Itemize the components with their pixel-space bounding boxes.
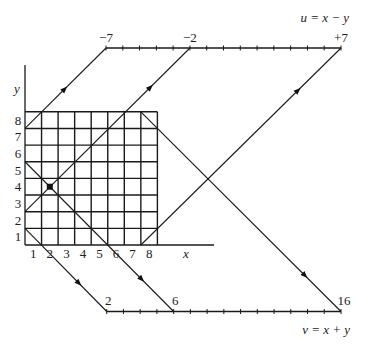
y-tick-label: 3 <box>15 196 22 211</box>
y-tick-label: 7 <box>15 129 22 144</box>
u-tick-label: +7 <box>334 30 348 45</box>
v-axis-title: v = x + y <box>302 322 350 337</box>
v-tick-label: 2 <box>105 293 112 308</box>
diagram-canvas: 1234567812345678xy−7−2+72616u = x − yv =… <box>0 0 367 352</box>
y-tick-label: 6 <box>15 146 22 161</box>
x-tick-label: 4 <box>80 246 87 261</box>
x-tick-label: 5 <box>96 246 103 261</box>
x-tick-label: 1 <box>30 246 37 261</box>
y-tick-label: 2 <box>15 213 22 228</box>
coordinate-transform-diagram: 1234567812345678xy−7−2+72616u = x − yv =… <box>0 0 367 352</box>
x-tick-label: 8 <box>146 246 153 261</box>
u-line <box>141 48 341 245</box>
v-axis <box>107 309 341 314</box>
y-tick-label: 4 <box>15 179 22 194</box>
u-tick-label: −7 <box>99 30 113 45</box>
y-tick-label: 1 <box>15 229 22 244</box>
x-tick-label: 7 <box>129 246 136 261</box>
x-tick-label: 3 <box>63 246 70 261</box>
u-line <box>25 48 106 128</box>
x-tick-label: 6 <box>113 246 120 261</box>
xy-grid <box>25 65 214 245</box>
y-tick-label: 5 <box>15 163 22 178</box>
v-line <box>141 112 341 312</box>
x-tick-label: 2 <box>47 246 54 261</box>
u-axis-title: u = x − y <box>300 10 349 25</box>
v-tick-label: 6 <box>172 293 179 308</box>
u-axis <box>106 46 341 51</box>
v-line-path <box>141 112 341 312</box>
y-axis-label: y <box>12 81 20 96</box>
highlighted-point <box>47 184 53 190</box>
u-tick-label: −2 <box>183 30 197 45</box>
v-line <box>25 228 107 311</box>
v-line-path <box>25 228 107 311</box>
x-axis-label: x <box>182 246 189 261</box>
u-line-path <box>141 48 341 245</box>
v-tick-label: 16 <box>338 293 352 308</box>
y-tick-label: 8 <box>15 113 22 128</box>
